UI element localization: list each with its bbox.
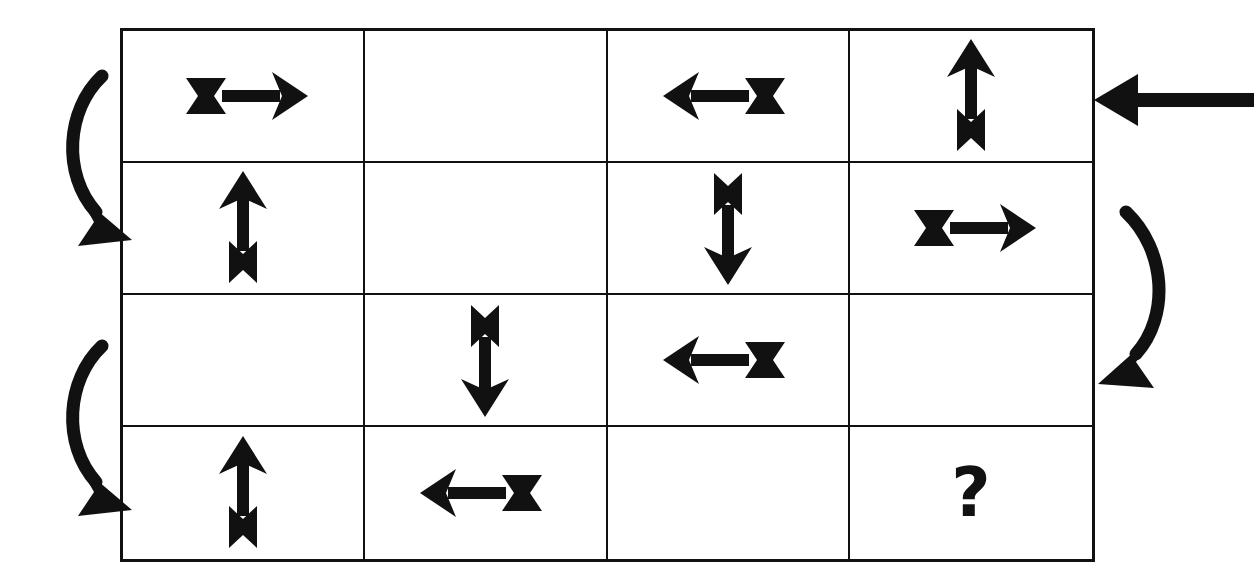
- grid-cell-r3c3[interactable]: [608, 295, 850, 427]
- empty-cell: [850, 295, 1092, 425]
- empty-cell: [608, 427, 848, 559]
- arrow-down: [608, 163, 848, 293]
- arrow-up: [850, 31, 1092, 161]
- grid-cell-r4c1[interactable]: [123, 427, 365, 559]
- empty-cell: [365, 31, 605, 161]
- puzzle-stage: ?: [0, 0, 1258, 587]
- grid-cell-r2c1[interactable]: [123, 163, 365, 295]
- grid-cell-r3c2[interactable]: [365, 295, 607, 427]
- arrow-right: [123, 31, 363, 161]
- curved-flow-arrow-left-upper: [44, 62, 152, 258]
- arrow-up: [123, 427, 363, 559]
- curved-flow-arrow-left-lower: [44, 332, 152, 528]
- arrow-right: [850, 163, 1092, 293]
- grid-cell-r3c1[interactable]: [123, 295, 365, 427]
- grid-cell-r2c4[interactable]: [850, 163, 1092, 295]
- grid-cell-r1c4[interactable]: [850, 31, 1092, 163]
- grid-cell-r2c3[interactable]: [608, 163, 850, 295]
- grid-cell-r2c2[interactable]: [365, 163, 607, 295]
- grid-cell-r1c2[interactable]: [365, 31, 607, 163]
- grid-cell-r1c3[interactable]: [608, 31, 850, 163]
- arrow-down: [365, 295, 605, 425]
- arrow-left: [608, 295, 848, 425]
- pointer-arrow-left: [1092, 62, 1258, 138]
- grid-cell-r4c2[interactable]: [365, 427, 607, 559]
- grid-cell-r3c4[interactable]: [850, 295, 1092, 427]
- grid-cell-r1c1[interactable]: [123, 31, 365, 163]
- arrow-left: [608, 31, 848, 161]
- curved-flow-arrow-right-middle: [1092, 196, 1208, 396]
- empty-cell: [123, 295, 363, 425]
- arrow-up: [123, 163, 363, 293]
- grid-cell-r4c4[interactable]: ?: [850, 427, 1092, 559]
- grid-cell-r4c3[interactable]: [608, 427, 850, 559]
- arrow-left: [365, 427, 605, 559]
- empty-cell: [365, 163, 605, 293]
- question-mark: ?: [951, 459, 990, 527]
- arrow-grid: ?: [120, 28, 1095, 562]
- answer-cell: ?: [850, 427, 1092, 559]
